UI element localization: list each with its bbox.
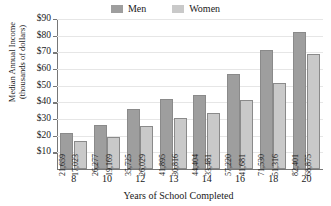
- bar-group: 82,40168,875: [290, 19, 323, 169]
- bar-chart: Men Women Median Annual Income (thousand…: [0, 0, 331, 206]
- x-axis-tick-label: 18: [257, 173, 290, 184]
- bar-women: 19,169: [107, 137, 120, 169]
- x-axis-tick-label: 16: [223, 173, 256, 184]
- x-axis-ticks: 810121314161820: [57, 173, 323, 184]
- bar-women: 17,023: [74, 141, 87, 169]
- bar-group: 44,40433,481: [190, 19, 223, 169]
- x-axis-title-text: Years of School Completed: [98, 190, 234, 201]
- legend-entry-men: Men: [111, 4, 146, 14]
- x-axis-tick-label: 12: [124, 173, 157, 184]
- x-axis-title: Years of School Completed: [0, 190, 331, 201]
- x-axis-tick-label: 10: [90, 173, 123, 184]
- plot-area: $10$20$30$40$50$60$70$80$90 21,65917,023…: [57, 19, 323, 170]
- x-axis-tick-label: 13: [157, 173, 190, 184]
- bar-women: 68,875: [307, 54, 320, 169]
- y-axis-title-line2: (thousands of dollars): [17, 0, 27, 125]
- bar-group: 41,89530,816: [157, 19, 190, 169]
- y-axis-tick-label: $70: [37, 48, 51, 58]
- legend-label-men: Men: [128, 4, 146, 14]
- legend-entry-women: Women: [172, 4, 220, 14]
- bar-groups: 21,65917,02326,27719,16935,72526,02941,8…: [57, 19, 323, 169]
- y-axis-title-line1: Median Annual Income: [7, 0, 17, 125]
- y-axis-tick-label: $40: [37, 98, 51, 108]
- bar-women: 26,029: [140, 126, 153, 169]
- x-axis-tick-label: 20: [290, 173, 323, 184]
- bar-group: 71,53051,316: [257, 19, 290, 169]
- bar-women: 41,681: [240, 100, 253, 169]
- y-axis-title: Median Annual Income (thousands of dolla…: [7, 0, 27, 125]
- legend-swatch-women: [172, 5, 184, 13]
- legend-swatch-men: [111, 5, 123, 13]
- bar-men: 71,530: [260, 50, 273, 169]
- bar-women: 33,481: [207, 113, 220, 169]
- bar-group: 35,72526,029: [124, 19, 157, 169]
- y-axis-tick-label: $30: [37, 114, 51, 124]
- bar-men: 82,401: [293, 32, 306, 169]
- y-axis-tick-label: $10: [37, 148, 51, 158]
- y-axis-tick-label: $80: [37, 31, 51, 41]
- bar-group: 26,27719,169: [90, 19, 123, 169]
- bar-group: 21,65917,023: [57, 19, 90, 169]
- y-axis-tick-label: $90: [37, 14, 51, 24]
- y-axis-tick-label: $50: [37, 81, 51, 91]
- y-axis-tick-label: $20: [37, 131, 51, 141]
- legend-label-women: Women: [189, 4, 220, 14]
- bar-women: 51,316: [273, 83, 286, 169]
- bar-group: 57,22041,681: [223, 19, 256, 169]
- y-axis-tick-label: $60: [37, 64, 51, 74]
- bar-women: 30,816: [174, 118, 187, 169]
- x-axis-tick-label: 14: [190, 173, 223, 184]
- x-axis-tick-label: 8: [57, 173, 90, 184]
